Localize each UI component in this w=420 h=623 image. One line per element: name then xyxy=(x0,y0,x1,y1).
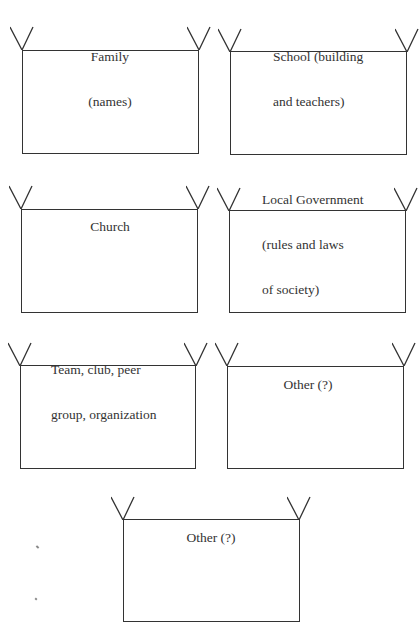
worksheet-page: Family (names) School (building and teac… xyxy=(0,0,420,623)
left-antenna-icon xyxy=(215,342,239,366)
right-antenna-icon xyxy=(392,342,416,366)
left-antenna-icon xyxy=(10,26,34,50)
right-antenna-icon xyxy=(184,342,208,366)
left-antenna-icon xyxy=(218,28,242,52)
frame-church-box xyxy=(21,209,198,313)
right-antenna-icon xyxy=(186,185,210,209)
stray-mark xyxy=(35,598,38,601)
left-antenna-icon xyxy=(8,342,32,366)
frame-other-1-box xyxy=(227,366,404,469)
stray-mark xyxy=(36,545,40,548)
left-antenna-icon xyxy=(111,496,135,520)
right-antenna-icon xyxy=(395,28,419,52)
frame-team-club-box xyxy=(20,365,196,469)
frame-local-government-box xyxy=(229,210,406,313)
right-antenna-icon xyxy=(394,187,418,211)
right-antenna-icon xyxy=(287,496,311,520)
left-antenna-icon xyxy=(217,187,241,211)
frame-family-box xyxy=(22,50,199,154)
left-antenna-icon xyxy=(9,185,33,209)
frame-label-line: Local Government xyxy=(262,192,364,207)
right-antenna-icon xyxy=(187,26,211,50)
frame-school-box xyxy=(230,51,407,155)
frame-other-2-box xyxy=(123,519,300,622)
